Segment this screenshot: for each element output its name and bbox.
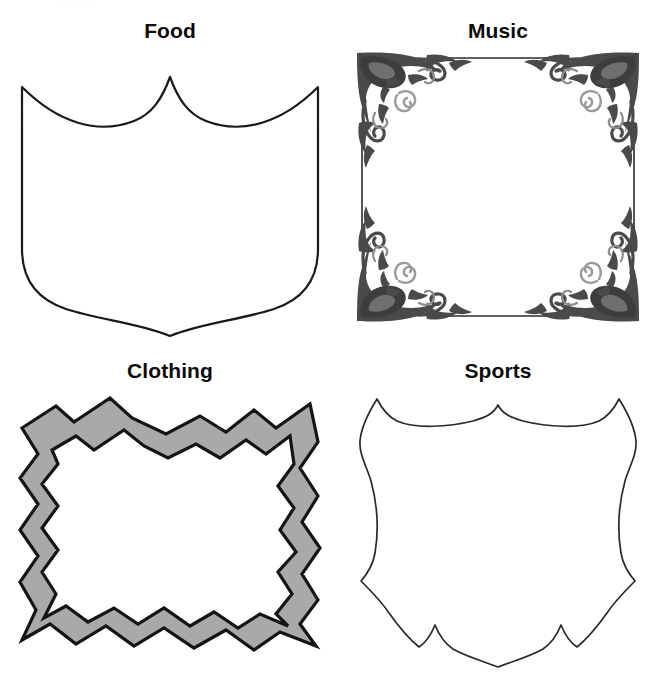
shape-cell-clothing[interactable]: Clothing <box>0 351 340 685</box>
food-shield-path <box>22 77 318 336</box>
clothing-zigzag-band-path <box>20 398 320 650</box>
shape-cell-food[interactable]: Food <box>0 9 340 351</box>
shape-label-sports: Sports <box>464 360 531 381</box>
shape-label-music: Music <box>468 20 528 41</box>
sports-shield-svg <box>353 387 643 667</box>
shape-label-clothing: Clothing <box>127 360 213 381</box>
shape-grid: Food Music <box>0 9 656 685</box>
ornament-corner-bottom-right <box>524 206 639 322</box>
music-frame-svg <box>353 49 643 325</box>
ornament-corner-top-left <box>357 53 472 169</box>
ornament-corner-top-right <box>524 53 639 169</box>
sports-shield-path <box>360 399 636 667</box>
shape-art-sports <box>353 387 643 667</box>
scan-artifact-text: · · · · · <box>0 0 656 9</box>
clothing-zigzag-frame-svg <box>14 384 326 656</box>
ornament-corner-bottom-left <box>357 206 472 322</box>
food-shield-svg <box>10 47 330 337</box>
music-frame-rules <box>362 58 634 316</box>
shape-cell-music[interactable]: Music <box>340 9 656 351</box>
shape-cell-sports[interactable]: Sports <box>340 351 656 685</box>
shape-art-music <box>353 49 643 325</box>
shape-label-food: Food <box>144 20 196 41</box>
shape-art-clothing <box>14 384 326 656</box>
shape-art-food <box>10 47 330 337</box>
